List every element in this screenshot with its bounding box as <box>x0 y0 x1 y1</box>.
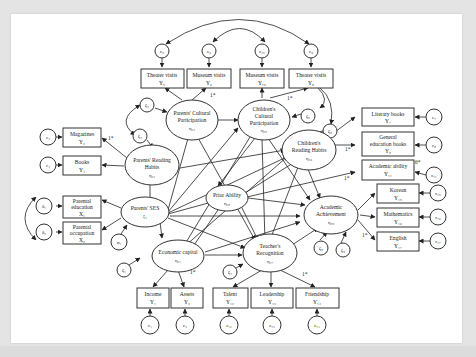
latent-parents-cultural-participation: Parents' CulturalParticipationη₁₃ <box>166 100 218 140</box>
box-friendship-y14: FriendshipY₁₄ <box>296 288 339 308</box>
svg-text:Museum visits: Museum visits <box>193 72 226 78</box>
svg-text:ζ₉: ζ₉ <box>341 248 345 253</box>
svg-text:Theater visits: Theater visits <box>296 72 326 78</box>
box-assets-y2: AssetsY₂ <box>171 288 203 308</box>
loading-label: 1* <box>344 175 350 181</box>
svg-text:Parents' SES: Parents' SES <box>131 205 160 211</box>
box-books-y4: BooksY₄ <box>63 156 101 175</box>
svg-text:Y₂: Y₂ <box>184 299 190 305</box>
svg-text:ε₈: ε₈ <box>432 143 436 148</box>
box-leadership-y13: LeadershipY₁₃ <box>251 288 293 308</box>
svg-text:Recognition: Recognition <box>256 250 284 256</box>
svg-text:Achievement: Achievement <box>316 211 346 217</box>
svg-text:φ₁: φ₁ <box>117 240 122 245</box>
box-literary-books-y7: Literary booksY₇ <box>362 108 414 126</box>
box-talent-y12: TalentY₁₂ <box>213 288 248 308</box>
svg-text:η₁₃: η₁₃ <box>189 126 195 131</box>
error-e3: ε₃ <box>40 129 56 145</box>
box-academic-ability-y11: Academic abilityY₁₁ <box>362 160 414 180</box>
error-e10: ε₁₀ <box>255 44 269 58</box>
svg-text:Y₁₀: Y₁₀ <box>258 80 266 86</box>
svg-text:ε₇: ε₇ <box>432 115 436 120</box>
box-theater-visits-y9: Theater visitsY₉ <box>289 69 333 88</box>
svg-text:Mathematics: Mathematics <box>384 211 413 217</box>
box-parental-occupation-x2: ParentaloccupationX₂ <box>63 222 101 244</box>
box-museum-visits-y6: Museum visitsY₆ <box>187 69 231 88</box>
svg-text:Books: Books <box>75 159 89 165</box>
svg-text:ζ₇: ζ₇ <box>228 270 232 275</box>
covariance-arc-e5-e9 <box>166 20 309 45</box>
box-income-y1: IncomeY₁ <box>137 288 169 308</box>
latent-childrens-cultural-participation: Children'sCulturalParticipationη₁₅ <box>238 100 290 140</box>
error-e4: ε₄ <box>40 157 56 173</box>
svg-text:Y₁₇: Y₁₇ <box>394 243 402 249</box>
svg-text:Economic capital: Economic capital <box>159 249 198 255</box>
loading-label: 1* <box>190 269 196 275</box>
svg-text:ε₆: ε₆ <box>207 49 211 54</box>
svg-text:ζ₅: ζ₅ <box>306 114 310 119</box>
svg-text:occupation: occupation <box>70 230 95 236</box>
svg-text:ε₅: ε₅ <box>160 49 164 54</box>
disturbance-z8: ζ₈ <box>314 241 328 255</box>
disturbance-z7: ζ₇ <box>223 265 237 279</box>
sem-diagram: ε₅ ε₆ ε₁₀ ε₉ Theater visitsY₅ Museum vis… <box>0 0 476 357</box>
svg-text:ε₁: ε₁ <box>148 323 152 328</box>
error-d1: δ₁ <box>36 198 52 214</box>
svg-text:ζ₂: ζ₂ <box>138 134 142 139</box>
error-e12: ε₁₂ <box>220 316 238 334</box>
loading-label: 1* <box>108 135 114 141</box>
svg-text:Parents' Cultural: Parents' Cultural <box>173 110 211 116</box>
svg-text:Income: Income <box>145 291 162 297</box>
svg-text:Assets: Assets <box>180 291 195 297</box>
svg-text:ε₁₆: ε₁₆ <box>435 215 441 220</box>
error-e9: ε₉ <box>304 44 318 58</box>
loading-label: 1* <box>287 95 293 101</box>
svg-text:η₁₇: η₁₇ <box>267 259 273 264</box>
svg-text:Magazines: Magazines <box>70 131 94 137</box>
svg-text:ε₁₃: ε₁₃ <box>269 323 275 328</box>
svg-text:Children's: Children's <box>253 106 276 112</box>
svg-text:English: English <box>389 235 406 241</box>
error-e5: ε₅ <box>155 44 169 58</box>
svg-text:Teacher's: Teacher's <box>260 243 281 249</box>
latent-parents-ses: Parents' SESξ₁ <box>121 197 169 227</box>
error-e11: ε₁₁ <box>426 167 442 183</box>
svg-text:Y₃: Y₃ <box>79 139 85 145</box>
box-magazines-y3: MagazinesY₃ <box>63 128 101 147</box>
svg-text:X₂: X₂ <box>79 237 85 243</box>
svg-text:Participation: Participation <box>250 120 279 126</box>
svg-text:ε₁₇: ε₁₇ <box>435 239 441 244</box>
latent-childrens-reading-habits: Children'sReading Habitsη₁₆ <box>282 130 336 170</box>
svg-text:Parents' Reading: Parents' Reading <box>133 157 171 163</box>
svg-text:Y₁₄: Y₁₄ <box>313 299 321 305</box>
svg-text:Y₁: Y₁ <box>150 299 156 305</box>
svg-text:Academic: Academic <box>320 204 343 210</box>
svg-text:δ₁: δ₁ <box>42 204 46 209</box>
covariance-arc-e6-e10 <box>213 29 265 43</box>
svg-text:ε₁₁: ε₁₁ <box>431 173 437 178</box>
error-e17: ε₁₇ <box>430 233 446 249</box>
svg-text:Cultural: Cultural <box>255 113 274 119</box>
svg-text:Reading Habits: Reading Habits <box>292 147 327 153</box>
disturbance-z2: ζ₂ <box>133 129 147 143</box>
svg-text:ζ₆: ζ₆ <box>328 129 332 134</box>
loading-label-theta: θ* <box>415 159 421 165</box>
box-general-education-books-y8: Generaleducation booksY₈ <box>362 132 414 156</box>
svg-text:η₁₉: η₁₉ <box>328 220 334 225</box>
disturbance-z9: ζ₉ <box>336 243 350 257</box>
latent-academic-achievement: AcademicAchievementη₁₉ <box>304 196 358 234</box>
error-e8: ε₈ <box>426 137 442 153</box>
svg-text:ζ₈: ζ₈ <box>319 246 323 251</box>
svg-text:Talent: Talent <box>223 291 237 297</box>
svg-text:Y₁₃: Y₁₃ <box>268 299 276 305</box>
error-e14: ε₁₄ <box>308 316 326 334</box>
svg-text:education books: education books <box>370 141 407 147</box>
svg-text:Y₈: Y₈ <box>385 148 391 154</box>
svg-text:Y₁₁: Y₁₁ <box>384 171 392 177</box>
error-e7: ε₇ <box>426 109 442 125</box>
error-e2: ε₂ <box>176 316 194 334</box>
error-e16: ε₁₆ <box>430 209 446 225</box>
svg-text:Academic ability: Academic ability <box>369 163 408 169</box>
svg-text:Y₁₂: Y₁₂ <box>226 299 234 305</box>
error-e6: ε₆ <box>202 44 216 58</box>
